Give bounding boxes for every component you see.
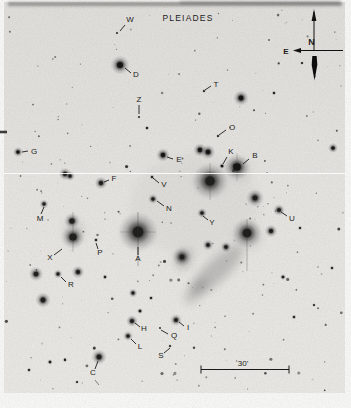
star-label-q: Q	[171, 331, 177, 340]
star	[161, 153, 165, 157]
star-label-n: N	[166, 204, 172, 213]
field-star	[80, 63, 81, 64]
field-star	[32, 104, 34, 106]
field-star	[264, 160, 266, 162]
plate-top-band-2	[180, 1, 340, 4]
field-star	[130, 28, 132, 30]
star-label-k: K	[228, 147, 234, 156]
star-label-m: M	[37, 214, 44, 223]
field-star	[51, 163, 53, 165]
field-star	[268, 39, 270, 41]
field-star	[213, 102, 214, 103]
star-label-y: Y	[209, 218, 215, 227]
scale-bar-label: 30'	[238, 359, 249, 368]
pleiades-plate: WDTZOGEKBFVMNUYXPARHIQLSC PLEIADES N E 3…	[0, 0, 351, 408]
field-star	[340, 85, 342, 87]
field-star	[278, 62, 280, 64]
star	[117, 62, 123, 68]
star-label-w: W	[126, 15, 134, 24]
field-star	[168, 74, 169, 75]
field-star	[302, 19, 303, 20]
star	[206, 150, 211, 155]
field-star	[161, 92, 164, 95]
star-label-h: H	[141, 324, 147, 333]
field-star	[336, 39, 337, 40]
star	[301, 62, 303, 64]
field-star	[327, 66, 328, 67]
field-star	[67, 132, 69, 134]
field-star	[66, 103, 67, 104]
field-star	[179, 170, 181, 172]
star-label-b: B	[252, 151, 257, 160]
field-star	[286, 22, 287, 23]
star	[16, 150, 19, 153]
star	[203, 90, 205, 92]
field-star	[313, 111, 315, 113]
star	[116, 32, 117, 33]
star-label-l: L	[138, 342, 143, 351]
field-star	[281, 9, 282, 10]
star-label-i: I	[187, 323, 189, 332]
field-star	[58, 116, 59, 117]
field-star	[284, 23, 285, 24]
field-star	[113, 107, 114, 108]
field-star	[34, 131, 36, 133]
field-star	[81, 124, 82, 125]
star-label-z: Z	[137, 95, 142, 104]
field-star	[125, 165, 128, 168]
star-label-v: V	[161, 180, 167, 189]
field-star	[317, 140, 319, 142]
field-star	[263, 90, 264, 91]
field-star	[227, 69, 229, 71]
field-star	[38, 135, 40, 137]
compass-north-label: N	[308, 37, 315, 47]
star-label-f: F	[112, 174, 117, 183]
field-star	[194, 50, 196, 52]
field-star	[277, 14, 280, 17]
field-star	[195, 119, 196, 120]
field-star	[182, 157, 184, 159]
field-star	[130, 171, 131, 172]
field-star	[218, 13, 220, 15]
field-star	[52, 58, 54, 60]
star	[273, 92, 275, 94]
field-star	[339, 65, 341, 67]
field-star	[129, 145, 131, 147]
field-star	[8, 16, 10, 18]
field-star	[253, 109, 255, 111]
field-star	[54, 56, 56, 58]
star	[146, 127, 148, 129]
figure-title: PLEIADES	[162, 13, 213, 23]
field-star	[334, 31, 336, 33]
field-star	[109, 162, 111, 164]
field-star	[255, 73, 256, 74]
field-star	[149, 15, 150, 16]
star	[239, 96, 244, 101]
field-star	[22, 162, 23, 163]
field-star	[64, 162, 65, 163]
field-star	[63, 9, 64, 10]
star-label-r: R	[68, 280, 74, 289]
star-label-t: T	[214, 80, 219, 89]
field-star	[116, 49, 117, 50]
field-star	[232, 20, 233, 21]
star-label-e: E	[176, 155, 181, 164]
star	[217, 135, 219, 137]
field-star	[60, 159, 61, 160]
star-label-d: D	[133, 70, 139, 79]
field-star	[239, 106, 240, 107]
field-star	[9, 31, 11, 33]
star-label-p: P	[97, 248, 102, 257]
star	[331, 146, 334, 149]
star-label-s: S	[158, 351, 163, 360]
star-label-g: G	[31, 147, 37, 156]
field-star	[90, 146, 91, 147]
figure-page: WDTZOGEKBFVMNUYXPARHIQLSC PLEIADES N E 3…	[0, 0, 351, 408]
field-star	[178, 73, 180, 75]
star-label-x: X	[47, 253, 53, 262]
field-star	[306, 115, 308, 117]
field-star	[217, 37, 218, 38]
field-star	[198, 112, 200, 114]
star-label-c: C	[90, 368, 96, 377]
star	[138, 116, 139, 117]
